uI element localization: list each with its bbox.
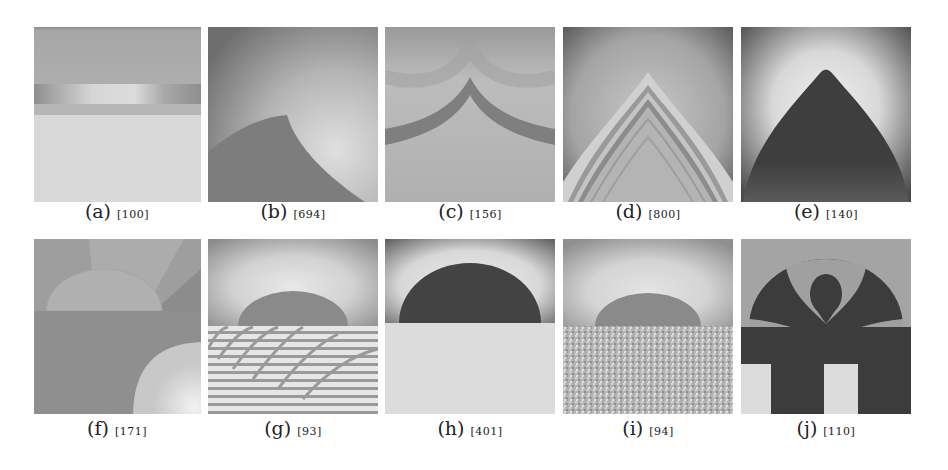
caption-label: (i) xyxy=(622,417,643,439)
caption-label: (e) xyxy=(794,200,820,222)
panel-e-image xyxy=(741,27,911,202)
caption-value: [694] xyxy=(293,208,325,221)
caption-value: [93] xyxy=(297,425,322,438)
panel-i-image xyxy=(563,239,733,414)
caption-h: (h)[401] xyxy=(380,417,560,439)
panel-c-image xyxy=(385,27,555,202)
caption-j: (j)[110] xyxy=(736,417,916,439)
panel-a-image xyxy=(34,27,201,202)
caption-value: [800] xyxy=(648,208,680,221)
caption-label: (a) xyxy=(85,200,111,222)
caption-b: (b)[694] xyxy=(203,200,383,222)
caption-d: (d)[800] xyxy=(558,200,738,222)
caption-e: (e)[140] xyxy=(736,200,916,222)
panel-f-image xyxy=(34,239,201,414)
panel-g-image xyxy=(208,239,378,414)
panel-h-image xyxy=(385,239,555,414)
caption-label: (g) xyxy=(264,417,291,439)
caption-value: [100] xyxy=(117,208,149,221)
caption-i: (i)[94] xyxy=(558,417,738,439)
caption-c: (c)[156] xyxy=(380,200,560,222)
caption-value: [401] xyxy=(470,425,502,438)
caption-value: [156] xyxy=(470,208,502,221)
caption-label: (j) xyxy=(797,417,818,439)
caption-value: [110] xyxy=(823,425,855,438)
caption-label: (b) xyxy=(260,200,287,222)
caption-value: [140] xyxy=(826,208,858,221)
caption-a: (a)[100] xyxy=(27,200,207,222)
caption-label: (f) xyxy=(87,417,109,439)
caption-g: (g)[93] xyxy=(203,417,383,439)
caption-value: [171] xyxy=(115,425,147,438)
caption-label: (c) xyxy=(438,200,463,222)
caption-label: (h) xyxy=(437,417,464,439)
caption-label: (d) xyxy=(615,200,642,222)
panel-d-image xyxy=(563,27,733,202)
caption-value: [94] xyxy=(649,425,674,438)
panel-j-image xyxy=(741,239,911,414)
panel-b-image xyxy=(208,27,378,202)
caption-f: (f)[171] xyxy=(27,417,207,439)
